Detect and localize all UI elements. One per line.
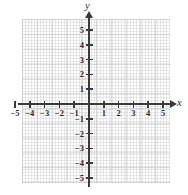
y-tick (86, 118, 93, 120)
x-tick (133, 101, 135, 108)
y-tick-label: 3 (70, 56, 84, 65)
x-tick-label: −4 (23, 109, 37, 118)
x-tick-label: 3 (126, 109, 140, 118)
y-axis-arrow-icon (85, 11, 93, 18)
y-axis-name: y (85, 1, 90, 12)
x-tick-label: −2 (52, 109, 66, 118)
x-tick-label: 5 (156, 109, 170, 118)
x-tick (103, 101, 105, 108)
y-tick (86, 162, 93, 164)
coordinate-plane: x y −5−4−3−2−11234554321−1−2−3−4−5 (0, 0, 188, 195)
x-tick (59, 101, 61, 108)
x-tick (44, 101, 46, 108)
x-tick (147, 101, 149, 108)
x-tick (14, 101, 16, 108)
y-tick-label: −5 (70, 174, 84, 183)
x-axis-name: x (177, 98, 182, 109)
x-tick-label: −5 (8, 109, 22, 118)
y-tick-label: 1 (70, 85, 84, 94)
x-tick (162, 101, 164, 108)
y-tick (86, 29, 93, 31)
x-tick-label: −3 (38, 109, 52, 118)
y-tick (86, 148, 93, 150)
x-axis-arrow-icon (170, 100, 177, 108)
y-tick-label: −1 (70, 115, 84, 124)
y-tick (86, 74, 93, 76)
y-tick (86, 44, 93, 46)
x-tick-label: 2 (112, 109, 126, 118)
y-tick (86, 133, 93, 135)
x-tick (73, 101, 75, 108)
y-tick (86, 88, 93, 90)
x-tick-label: 1 (97, 109, 111, 118)
y-tick-label: 4 (70, 41, 84, 50)
y-tick-label: 5 (70, 26, 84, 35)
y-tick-label: −4 (70, 159, 84, 168)
y-tick-label: −2 (70, 130, 84, 139)
y-tick (86, 177, 93, 179)
x-tick (29, 101, 31, 108)
y-tick (86, 59, 93, 61)
x-tick (118, 101, 120, 108)
y-tick-label: 2 (70, 70, 84, 79)
x-tick-label: 4 (141, 109, 155, 118)
y-tick-label: −3 (70, 144, 84, 153)
